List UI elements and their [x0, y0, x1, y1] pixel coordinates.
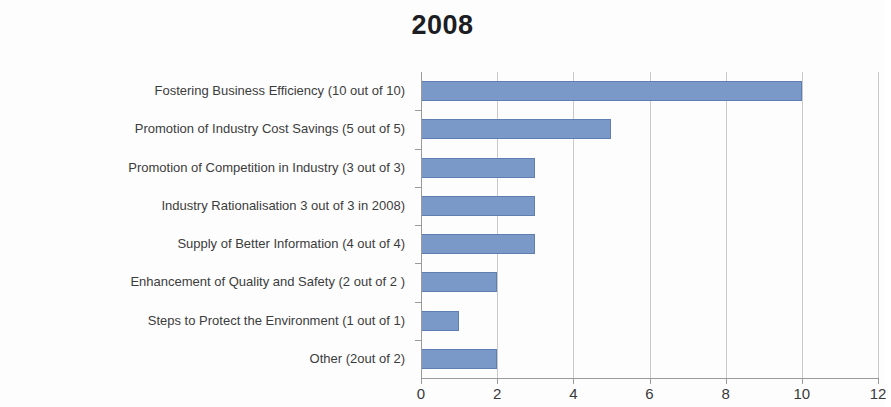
- bar: [421, 158, 535, 178]
- value-axis-tick-label: 0: [391, 385, 451, 402]
- value-axis-tick: [497, 378, 498, 384]
- plot-area: [421, 72, 878, 378]
- category-axis-line: [421, 72, 422, 379]
- bar-row: [421, 302, 878, 340]
- bar-row: [421, 263, 878, 301]
- chart-title: 2008: [0, 8, 885, 42]
- value-axis-tick-label: 4: [543, 385, 603, 402]
- value-axis-tick: [878, 378, 879, 384]
- value-axis-tick-label: 12: [848, 385, 891, 402]
- bar: [421, 81, 802, 101]
- value-axis-tick-label: 8: [696, 385, 756, 402]
- value-axis-tick-label: 10: [772, 385, 832, 402]
- bar-row: [421, 72, 878, 110]
- value-axis-tick-label: 2: [467, 385, 527, 402]
- bar-series: [421, 72, 878, 378]
- category-label: Promotion of Competition in Industry (3 …: [128, 149, 405, 187]
- bar: [421, 119, 611, 139]
- category-axis-tick: [415, 187, 421, 188]
- value-axis-tick: [650, 378, 651, 384]
- bar: [421, 234, 535, 254]
- bar: [421, 349, 497, 369]
- bar-row: [421, 340, 878, 378]
- value-axis-tick: [421, 378, 422, 384]
- category-axis-labels: Fostering Business Efficiency (10 out of…: [0, 72, 413, 378]
- category-axis-tick: [415, 225, 421, 226]
- bar-row: [421, 110, 878, 148]
- bar: [421, 311, 459, 331]
- category-axis-tick: [415, 340, 421, 341]
- category-axis-tick: [415, 110, 421, 111]
- bar: [421, 196, 535, 216]
- value-axis-tick: [573, 378, 574, 384]
- category-axis-tick: [415, 149, 421, 150]
- gridline: [878, 72, 879, 378]
- category-axis-tick: [415, 302, 421, 303]
- category-label: Other (2out of 2): [310, 340, 405, 378]
- category-label: Steps to Protect the Environment (1 out …: [148, 302, 405, 340]
- category-label: Promotion of Industry Cost Savings (5 ou…: [135, 110, 405, 148]
- value-axis-tick-label: 6: [620, 385, 680, 402]
- value-axis-tick: [802, 378, 803, 384]
- category-label: Fostering Business Efficiency (10 out of…: [155, 72, 406, 110]
- category-label: Supply of Better Information (4 out of 4…: [177, 225, 405, 263]
- category-label: Enhancement of Quality and Safety (2 out…: [130, 263, 405, 301]
- bar-row: [421, 225, 878, 263]
- bar-row: [421, 187, 878, 225]
- bar-row: [421, 149, 878, 187]
- category-label: Industry Rationalisation 3 out of 3 in 2…: [161, 187, 405, 225]
- value-axis-tick: [726, 378, 727, 384]
- category-axis-tick: [415, 263, 421, 264]
- bar: [421, 272, 497, 292]
